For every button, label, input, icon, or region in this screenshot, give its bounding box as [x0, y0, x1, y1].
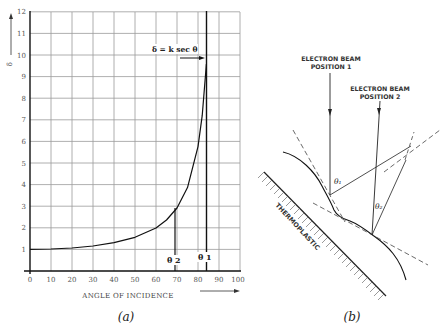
electron-beam-2 — [372, 101, 380, 235]
y-tick: 11 — [17, 30, 26, 38]
x-tick: 50 — [131, 276, 140, 284]
beam2-label-line1: ELECTRON BEAM — [350, 85, 409, 92]
y-tick: 10 — [17, 52, 26, 60]
y-tick: 5 — [22, 160, 26, 168]
caption-a: (a) — [118, 310, 135, 324]
x-tick-labels: 0 10 20 30 40 50 60 70 80 90 100 — [28, 276, 245, 284]
x-tick: 40 — [110, 276, 119, 284]
y-tick: 3 — [22, 203, 26, 211]
caption-b: (b) — [343, 310, 360, 324]
tangent-line-2 — [313, 203, 428, 265]
x-tick: 90 — [215, 276, 224, 284]
arrow-right-icon — [199, 56, 205, 60]
x-axis-label: ANGLE OF INCIDENCE — [81, 292, 173, 300]
figure-canvas: 1 2 3 4 5 6 7 8 9 10 11 12 0 10 20 30 40… — [0, 0, 446, 329]
tangent-line-1 — [293, 130, 345, 222]
arrow-right-icon — [234, 289, 240, 293]
normal-dashed-2 — [405, 132, 414, 160]
y-tick: 6 — [22, 138, 27, 146]
y-tick: 2 — [22, 224, 26, 232]
x-tick: 80 — [194, 276, 203, 284]
y-axis-label: δ — [6, 62, 14, 67]
arrow-up-icon — [9, 13, 13, 19]
beam1-label-line2: POSITION 1 — [311, 63, 352, 70]
y-tick: 8 — [22, 95, 26, 103]
panel-a-chart: 1 2 3 4 5 6 7 8 9 10 11 12 0 10 20 30 40… — [6, 8, 245, 324]
normal-dashed-1 — [384, 130, 440, 172]
theta2-angle-label: θ₂ — [375, 202, 383, 211]
x-tick: 30 — [89, 276, 98, 284]
theta1-label: θ 1 — [198, 252, 212, 262]
y-tick: 4 — [22, 181, 27, 189]
y-tick: 1 — [22, 246, 26, 254]
beam2-label-line2: POSITION 2 — [360, 93, 401, 100]
thermoplastic-substrate — [258, 172, 386, 300]
x-tick: 70 — [173, 276, 182, 284]
sec-curve — [30, 64, 206, 249]
x-tick: 60 — [152, 276, 161, 284]
y-tick: 9 — [22, 73, 26, 81]
theta2-label: θ 2 — [167, 255, 181, 265]
equation-label: δ = k sec θ — [152, 45, 198, 54]
y-tick-labels: 1 2 3 4 5 6 7 8 9 10 11 12 — [17, 8, 26, 254]
panel-b-diagram: THERMOPLASTIC ELECTRON BEAM POSITION 1 E… — [258, 55, 440, 324]
x-tick: 20 — [68, 276, 77, 284]
x-tick: 0 — [28, 276, 32, 284]
x-tick: 100 — [231, 276, 244, 284]
normal-line-2 — [372, 160, 406, 235]
y-tick: 7 — [22, 116, 26, 124]
theta1-angle-label: θ₁ — [334, 177, 342, 186]
y-tick: 12 — [17, 8, 26, 16]
arrow-down-icon — [377, 108, 381, 115]
normal-line-1 — [330, 146, 411, 195]
beam1-label-line1: ELECTRON BEAM — [301, 55, 360, 62]
arrow-down-icon — [328, 109, 332, 116]
x-tick: 10 — [47, 276, 56, 284]
